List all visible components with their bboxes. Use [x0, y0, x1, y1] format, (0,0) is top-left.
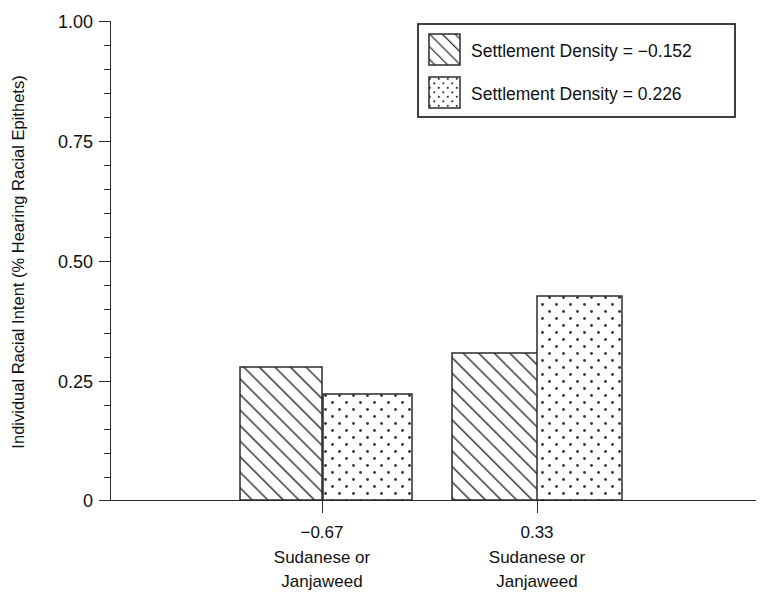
y-axis-title-group: Individual Racial Intent (% Hearing Raci… — [9, 75, 27, 448]
y-tick-label-1.00: 1.00 — [58, 12, 93, 32]
x-sublabel-group-2-line1: Sudanese or — [489, 548, 586, 567]
x-tick-label-group-1: −0.67 — [300, 523, 343, 542]
y-tick-label-0: 0 — [83, 491, 93, 511]
x-sublabel-group-1-line1: Sudanese or — [274, 548, 371, 567]
x-sublabel-group-1-line2: Janjaweed — [281, 572, 362, 591]
legend-swatch-diagonal-hatch-icon — [429, 34, 460, 65]
y-tick-label-0.50: 0.50 — [58, 252, 93, 272]
bar-group2-series1[interactable] — [452, 353, 538, 500]
y-axis-title: Individual Racial Intent (% Hearing Raci… — [9, 75, 27, 448]
x-axis: −0.67 Sudanese or Janjaweed 0.33 Sudanes… — [111, 501, 757, 592]
x-sublabel-group-2-line2: Janjaweed — [496, 572, 577, 591]
legend-label-2: Settlement Density = 0.226 — [471, 84, 682, 104]
x-tick-label-group-2: 0.33 — [520, 523, 553, 542]
chart-figure: Individual Racial Intent (% Hearing Raci… — [0, 0, 763, 598]
y-axis: 1.00 0.75 0.50 0.25 0 — [58, 12, 111, 511]
bars-layer — [240, 296, 622, 500]
bar-group2-series2[interactable] — [537, 296, 622, 500]
legend-swatch-dots-icon — [429, 77, 460, 108]
bar-chart-canvas: Individual Racial Intent (% Hearing Raci… — [0, 0, 763, 598]
y-tick-label-0.75: 0.75 — [58, 132, 93, 152]
legend-label-1: Settlement Density = −0.152 — [471, 41, 692, 61]
bar-group1-series2[interactable] — [323, 394, 412, 500]
bar-group1-series1[interactable] — [240, 367, 322, 500]
y-tick-label-0.25: 0.25 — [58, 372, 93, 392]
legend: Settlement Density = −0.152 Settlement D… — [418, 24, 735, 117]
